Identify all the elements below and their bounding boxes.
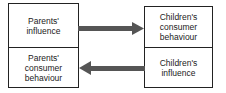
childrens-consumer-behaviour-label: Children's consumer behaviour <box>160 12 198 42</box>
childrens-consumer-behaviour-box: Children's consumer behaviour <box>144 6 213 48</box>
childrens-influence-box: Children's influence <box>144 47 213 88</box>
parents-influence-box: Parents' influence <box>8 3 79 48</box>
arrow-left-icon <box>79 61 145 75</box>
childrens-influence-label: Children's influence <box>160 58 198 78</box>
parents-influence-label: Parents' influence <box>26 16 60 36</box>
parents-consumer-behaviour-box: Parents' consumer behaviour <box>8 47 79 88</box>
parents-consumer-behaviour-label: Parents' consumer behaviour <box>25 53 62 83</box>
arrow-right-icon <box>78 22 145 36</box>
